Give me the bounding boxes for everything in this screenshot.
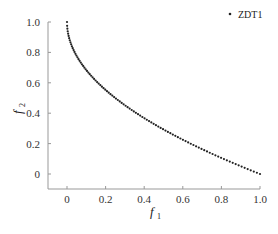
axes: 00.20.40.60.81.000.20.40.60.81.0 bbox=[26, 16, 267, 205]
data-point bbox=[69, 39, 71, 41]
data-point bbox=[214, 154, 216, 156]
x-tick-label: 0.2 bbox=[99, 193, 113, 205]
data-point bbox=[167, 131, 169, 133]
y-axis-title: f 2 bbox=[10, 103, 27, 114]
data-point bbox=[223, 158, 225, 160]
data-point bbox=[169, 132, 171, 134]
data-point bbox=[68, 35, 70, 37]
data-point bbox=[72, 47, 74, 49]
data-point bbox=[192, 144, 194, 146]
data-point bbox=[241, 165, 243, 167]
x-tick-label: 0 bbox=[64, 193, 70, 205]
data-point bbox=[68, 37, 70, 39]
data-point bbox=[220, 157, 222, 159]
data-point bbox=[187, 141, 189, 143]
y-tick-label: 0.2 bbox=[26, 138, 40, 150]
x-axis-title: f 1 bbox=[150, 204, 161, 221]
legend-label: ZDT1 bbox=[238, 9, 262, 20]
data-point bbox=[133, 110, 135, 112]
data-point bbox=[139, 114, 141, 116]
data-point bbox=[108, 92, 110, 94]
data-point bbox=[256, 172, 258, 174]
data-point bbox=[135, 112, 137, 114]
x-tick-label: 0.6 bbox=[176, 193, 190, 205]
data-point bbox=[200, 148, 202, 150]
pareto-front-points bbox=[66, 21, 261, 175]
data-point bbox=[203, 149, 205, 151]
data-point bbox=[174, 135, 176, 137]
data-point bbox=[206, 150, 208, 152]
data-point bbox=[137, 113, 139, 115]
data-point bbox=[226, 159, 228, 161]
data-point bbox=[127, 106, 129, 108]
legend-marker-icon bbox=[229, 13, 232, 16]
data-point bbox=[121, 102, 123, 104]
y-tick-label: 0 bbox=[35, 168, 41, 180]
data-point bbox=[102, 87, 104, 89]
x-tick-label: 1.0 bbox=[253, 193, 267, 205]
data-point bbox=[66, 21, 68, 23]
data-point bbox=[190, 143, 192, 145]
data-point bbox=[198, 147, 200, 149]
data-point bbox=[172, 133, 174, 135]
data-point bbox=[96, 81, 98, 83]
data-point bbox=[182, 139, 184, 141]
y-axis-subscript: 2 bbox=[18, 103, 27, 107]
data-point bbox=[164, 129, 166, 131]
legend: ZDT1 bbox=[229, 9, 263, 20]
data-point bbox=[162, 128, 164, 130]
data-point bbox=[148, 120, 150, 122]
data-point bbox=[71, 45, 73, 47]
data-point bbox=[250, 169, 252, 171]
data-point bbox=[184, 140, 186, 142]
data-point bbox=[129, 107, 131, 109]
data-point bbox=[69, 41, 71, 43]
data-point bbox=[244, 167, 246, 169]
data-point bbox=[235, 163, 237, 165]
data-point bbox=[131, 109, 133, 111]
data-point bbox=[98, 82, 100, 84]
data-point bbox=[153, 123, 155, 125]
data-point bbox=[259, 173, 261, 175]
data-point bbox=[150, 121, 152, 123]
data-point bbox=[195, 145, 197, 147]
data-point bbox=[253, 170, 255, 172]
y-tick-label: 0.6 bbox=[26, 77, 40, 89]
data-point bbox=[67, 33, 69, 35]
data-point bbox=[67, 30, 69, 32]
data-point bbox=[141, 116, 143, 118]
data-point bbox=[104, 89, 106, 91]
data-point bbox=[217, 155, 219, 157]
data-point bbox=[160, 127, 162, 129]
y-tick-label: 0.4 bbox=[26, 107, 40, 119]
data-point bbox=[157, 125, 159, 127]
data-point bbox=[229, 160, 231, 162]
data-point bbox=[66, 25, 68, 27]
data-point bbox=[247, 168, 249, 170]
data-point bbox=[70, 43, 72, 45]
x-tick-label: 0.8 bbox=[215, 193, 229, 205]
data-point bbox=[123, 103, 125, 105]
data-point bbox=[115, 97, 117, 99]
x-axis-label: f bbox=[150, 204, 156, 219]
data-point bbox=[101, 86, 103, 88]
data-point bbox=[117, 99, 119, 101]
scatter-chart: 00.20.40.60.81.000.20.40.60.81.0 ZDT1 f … bbox=[0, 0, 278, 234]
data-point bbox=[211, 153, 213, 155]
data-point bbox=[106, 90, 108, 92]
data-point bbox=[179, 137, 181, 139]
data-point bbox=[155, 124, 157, 126]
data-point bbox=[99, 84, 101, 86]
data-point bbox=[109, 93, 111, 95]
x-axis-subscript: 1 bbox=[157, 212, 161, 221]
data-point bbox=[209, 152, 211, 154]
data-point bbox=[238, 164, 240, 166]
y-tick-label: 1.0 bbox=[26, 16, 40, 28]
data-point bbox=[111, 95, 113, 97]
y-axis-label: f bbox=[10, 108, 25, 114]
data-point bbox=[66, 28, 68, 30]
data-point bbox=[232, 162, 234, 164]
data-point bbox=[119, 100, 121, 102]
data-point bbox=[124, 105, 126, 107]
data-point bbox=[177, 136, 179, 138]
